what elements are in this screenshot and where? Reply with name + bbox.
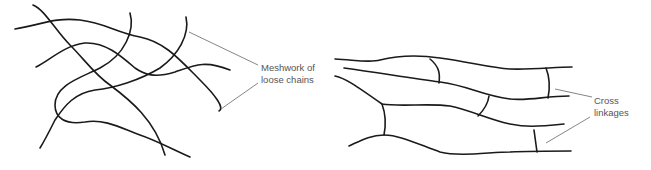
cross-linked-chains xyxy=(335,56,572,154)
leader-line xyxy=(221,83,258,109)
loose-chains-label: Meshwork of loose chains xyxy=(261,62,315,86)
polymer-diagram xyxy=(0,0,651,170)
cross-link xyxy=(546,68,549,98)
label-line: loose chains xyxy=(261,74,315,86)
cross-link xyxy=(478,96,489,116)
chain xyxy=(344,68,569,99)
cross-link xyxy=(534,130,537,152)
chain xyxy=(15,19,221,111)
cross-linkages-label: Cross linkages xyxy=(594,95,629,119)
cross-link xyxy=(382,104,385,135)
label-line: Meshwork of xyxy=(261,62,315,74)
label-line: linkages xyxy=(594,107,629,119)
label-line: Cross xyxy=(594,95,629,107)
chain xyxy=(335,56,572,69)
cross-link xyxy=(430,59,439,83)
chain xyxy=(36,43,230,75)
leader-line xyxy=(189,32,258,65)
loose-chains-meshwork xyxy=(15,5,230,157)
leader-line xyxy=(546,117,590,143)
chain xyxy=(33,5,165,155)
